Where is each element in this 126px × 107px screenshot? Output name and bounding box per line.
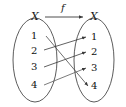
domain-element-1: 1 xyxy=(31,31,37,41)
arrow-2-to-1 xyxy=(44,37,86,50)
diagram-canvas xyxy=(0,0,126,107)
domain-element-2: 2 xyxy=(31,46,37,56)
codomain-element-1: 1 xyxy=(91,32,97,42)
arrow-1-to-4 xyxy=(46,36,88,86)
function-mapping-diagram: X X f 1 2 3 4 1 2 3 4 xyxy=(0,0,126,107)
domain-set-label: X xyxy=(31,11,39,22)
codomain-element-4: 4 xyxy=(91,81,97,91)
codomain-element-3: 3 xyxy=(91,63,97,73)
domain-element-4: 4 xyxy=(31,80,37,90)
codomain-element-2: 2 xyxy=(91,47,97,57)
domain-element-3: 3 xyxy=(31,62,37,72)
map-label-f: f xyxy=(61,3,65,13)
arrow-3-to-2 xyxy=(44,52,86,67)
codomain-set-label: X xyxy=(90,11,98,22)
